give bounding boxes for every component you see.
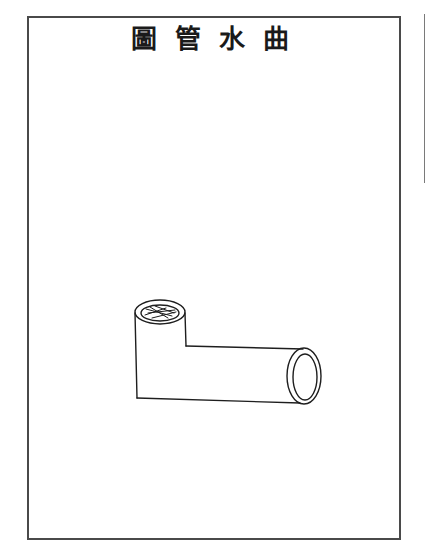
top-opening-hatching: [145, 306, 176, 318]
horizontal-pipe-bottom-edge: [137, 398, 300, 403]
vertical-pipe-left-edge: [135, 313, 137, 398]
end-opening-inner: [293, 354, 317, 400]
vertical-pipe-right-edge: [185, 313, 186, 346]
bent-pipe-illustration: [0, 0, 426, 557]
horizontal-pipe-top-edge: [186, 346, 303, 349]
end-opening-outer: [287, 348, 321, 404]
